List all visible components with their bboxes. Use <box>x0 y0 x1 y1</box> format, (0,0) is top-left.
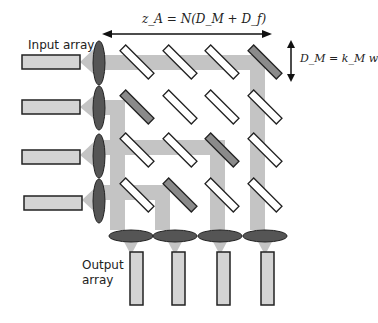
output-lenses <box>109 230 287 242</box>
d-formula: D_M = k_M w <box>300 52 378 65</box>
input-element <box>22 150 80 164</box>
output-element <box>130 252 143 305</box>
z-dimension-arrow <box>102 30 272 38</box>
input-element <box>24 196 82 210</box>
z-formula: z_A = N(D_M + D_f) <box>142 12 266 26</box>
input-lenses <box>93 41 105 223</box>
output-element <box>217 252 230 305</box>
output-array-label-line1: Output <box>82 258 124 272</box>
input-element <box>22 55 80 69</box>
input-element <box>22 100 80 114</box>
output-array-label-line2: array <box>82 273 113 287</box>
output-element <box>261 252 274 305</box>
d-dimension-arrow <box>287 40 295 82</box>
input-array <box>22 55 82 210</box>
output-array <box>130 252 274 305</box>
input-array-label: Input array <box>28 38 94 52</box>
output-element <box>172 252 185 305</box>
